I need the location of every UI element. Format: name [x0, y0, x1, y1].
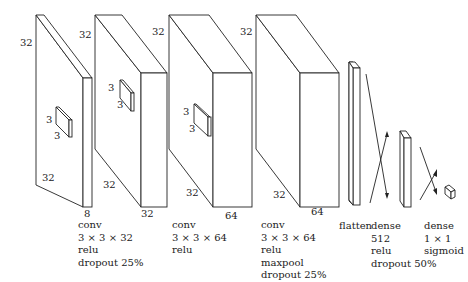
- layer-3-volume: [169, 15, 252, 207]
- layer-4-width-label: 32: [273, 189, 286, 200]
- caption-conv1: conv 3 × 3 × 32 relu dropout 25%: [78, 219, 144, 269]
- layer-1-height-label: 32: [20, 37, 33, 48]
- layer-3-kernel-h-label: 3: [183, 106, 189, 117]
- caption-conv3-line: relu: [261, 244, 327, 257]
- caption-dense2-line: 1 × 1: [424, 233, 464, 246]
- caption-dense2-line: sigmoid: [424, 245, 464, 258]
- layer-1-kernel-w-label: 3: [54, 130, 60, 141]
- dense-512-vector: [400, 131, 411, 207]
- caption-conv2: conv 3 × 3 × 64 relu: [172, 219, 227, 257]
- caption-flatten-line: flatten: [339, 220, 372, 233]
- layer-3-kernel-w-label: 3: [189, 123, 195, 134]
- layer-1-depth-label: 8: [84, 208, 90, 219]
- caption-conv3-line: conv: [261, 219, 327, 232]
- layer-1-kernel-h-label: 3: [46, 114, 52, 125]
- flatten-vector: [349, 62, 360, 205]
- caption-conv2-line: relu: [172, 244, 227, 257]
- caption-conv2-line: conv: [172, 219, 227, 232]
- caption-conv3-line: maxpool: [261, 257, 327, 270]
- caption-dense2-line: dense: [424, 220, 464, 233]
- layer-3-width-label: 32: [186, 187, 199, 198]
- layer-4-depth-label: 64: [311, 206, 324, 217]
- caption-conv1-line: 3 × 3 × 32: [78, 232, 144, 245]
- caption-dense1-line: dropout 50%: [371, 258, 437, 271]
- flatten-to-dense-connections: [366, 74, 389, 203]
- caption-conv3-line: dropout 25%: [261, 269, 327, 282]
- layer-4-height-label: 32: [240, 26, 253, 37]
- caption-conv1-line: conv: [78, 219, 144, 232]
- layer-1-width-label: 32: [42, 172, 55, 183]
- output-cube: [445, 185, 455, 199]
- layer-2-height-label: 32: [79, 29, 92, 40]
- layer-2-width-label: 32: [103, 179, 116, 190]
- layer-2-kernel-w-label: 3: [117, 99, 123, 110]
- caption-conv1-line: relu: [78, 244, 144, 257]
- layer-4-volume: [256, 15, 339, 207]
- layer-2-depth-label: 32: [141, 208, 154, 219]
- layer-3-height-label: 32: [152, 26, 165, 37]
- caption-conv1-line: dropout 25%: [78, 257, 144, 270]
- caption-conv3: conv 3 × 3 × 64 relu maxpool dropout 25%: [261, 219, 327, 282]
- dense-to-output-connections: [420, 147, 437, 200]
- caption-flatten: flatten: [339, 220, 372, 233]
- caption-dense2: dense 1 × 1 sigmoid: [424, 220, 464, 258]
- caption-conv3-line: 3 × 3 × 64: [261, 232, 327, 245]
- layer-2-kernel-h-label: 3: [108, 82, 114, 93]
- caption-conv2-line: 3 × 3 × 64: [172, 232, 227, 245]
